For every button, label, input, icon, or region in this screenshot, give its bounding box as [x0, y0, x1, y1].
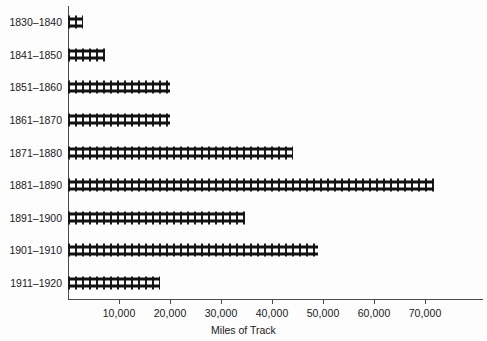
category-label: 1901–1910 [0, 244, 62, 256]
category-label: 1871–1880 [0, 147, 62, 159]
bar [68, 48, 105, 61]
bar [68, 146, 293, 159]
track-rail-bottom [68, 220, 245, 223]
x-tick-label: 20,000 [154, 307, 187, 319]
x-axis-line [68, 299, 483, 300]
x-tick-label: 30,000 [205, 307, 238, 319]
category-label: 1841–1850 [0, 49, 62, 61]
track-rail-top [68, 278, 160, 281]
x-axis-title: Miles of Track [0, 324, 487, 336]
category-label: 1861–1870 [0, 114, 62, 126]
x-tick [425, 299, 426, 304]
category-label: 1891–1900 [0, 212, 62, 224]
x-tick [374, 299, 375, 304]
category-label: 1830–1840 [0, 16, 62, 28]
bar [68, 16, 83, 29]
track-rail-top [68, 50, 105, 53]
track-rail-top [68, 180, 434, 183]
bar [68, 244, 318, 257]
x-tick-label: 70,000 [409, 307, 442, 319]
category-label: 1881–1890 [0, 179, 62, 191]
x-tick [170, 299, 171, 304]
bar [68, 81, 170, 94]
track-rail-bottom [68, 252, 318, 255]
track-rail-bottom [68, 24, 83, 27]
track-rail-bottom [68, 122, 170, 125]
track-rail-top [68, 82, 170, 85]
track-rail-bottom [68, 155, 293, 158]
bar [68, 113, 170, 126]
track-rail-bottom [68, 57, 105, 60]
x-tick [119, 299, 120, 304]
x-tick-label: 60,000 [358, 307, 391, 319]
x-tick-label: 50,000 [307, 307, 340, 319]
chart-container: 1830–18401841–18501851–18601861–18701871… [0, 0, 487, 341]
bar [68, 179, 434, 192]
x-tick [323, 299, 324, 304]
x-tick-label: 10,000 [103, 307, 136, 319]
track-rail-top [68, 17, 83, 20]
track-rail-top [68, 148, 293, 151]
category-label: 1911–1920 [0, 277, 62, 289]
track-rail-top [68, 245, 318, 248]
track-rail-top [68, 213, 245, 216]
x-tick [221, 299, 222, 304]
track-rail-bottom [68, 89, 170, 92]
x-tick-label: 40,000 [256, 307, 289, 319]
track-rail-bottom [68, 187, 434, 190]
category-label: 1851–1860 [0, 81, 62, 93]
bar [68, 276, 160, 289]
x-tick [272, 299, 273, 304]
bar [68, 211, 245, 224]
track-rail-top [68, 115, 170, 118]
track-rail-bottom [68, 285, 160, 288]
